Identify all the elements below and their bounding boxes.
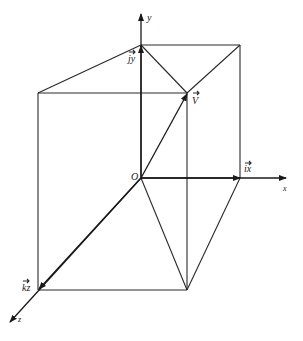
- labels: y x z O V jy ix kz: [17, 12, 287, 324]
- box-edges: [38, 45, 240, 290]
- x-axis-label: x: [282, 184, 287, 193]
- z-axis-label: z: [17, 315, 22, 324]
- vector-v-label: V: [192, 95, 200, 106]
- origin-label: O: [131, 171, 138, 182]
- j-component-label: jy: [126, 53, 136, 64]
- y-axis-label: y: [146, 12, 152, 23]
- vector-diagram: y x z O V jy ix kz: [0, 0, 303, 341]
- k-component-vector: [39, 178, 141, 289]
- k-component-label: kz: [22, 282, 30, 293]
- i-component-label: ix: [244, 163, 252, 174]
- vector-v: [141, 94, 187, 178]
- vectors: [39, 46, 240, 289]
